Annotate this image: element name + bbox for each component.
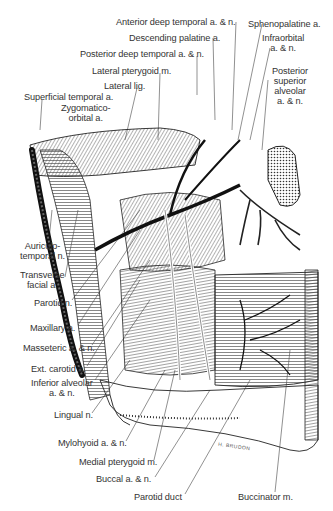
label-posterior-deep-temporal: Posterior deep temporal a. & n.	[80, 49, 204, 59]
label-maxillary: Maxillary a.	[30, 323, 75, 333]
label-ext-carotid: Ext. carotid a.	[31, 364, 86, 374]
label-superficial-temporal: Superficial temporal a.	[24, 92, 113, 102]
label-mylohyoid: Mylohyoid a. & n.	[58, 438, 127, 448]
label-transverse-facial: Transverse facial a.	[20, 270, 65, 290]
label-medial-pterygoid: Medial pterygoid m.	[79, 457, 157, 467]
label-lingual: Lingual n.	[54, 410, 93, 420]
label-parotid-duct: Parotid duct	[134, 492, 182, 502]
label-masseteric: Masseteric a. & n.	[23, 343, 95, 353]
label-lateral-lig: Lateral lig.	[104, 81, 145, 91]
label-inferior-alveolar: Inferior alveolar a. & n.	[31, 378, 93, 398]
label-posterior-superior-alveolar: Posterior superior alveolar a. & n.	[272, 66, 308, 106]
label-buccinator: Buccinator m.	[238, 492, 293, 502]
label-descending-palatine: Descending palatine a.	[129, 33, 220, 43]
label-parotid-n: Parotid n.	[34, 298, 72, 308]
label-zygomatico-orbital: Zygomatico- orbital a.	[61, 103, 110, 123]
label-buccal: Buccal a. & n.	[96, 474, 151, 484]
label-sphenopalatine: Sphenopalatine a.	[248, 19, 320, 29]
label-auriculotemporal: Auriculo- temporal n.	[20, 241, 65, 261]
label-infraorbital: Infraorbital a. & n.	[262, 33, 304, 53]
label-lateral-pterygoid: Lateral pterygoid m.	[92, 66, 171, 76]
label-anterior-deep-temporal: Anterior deep temporal a. & n.	[116, 17, 236, 27]
